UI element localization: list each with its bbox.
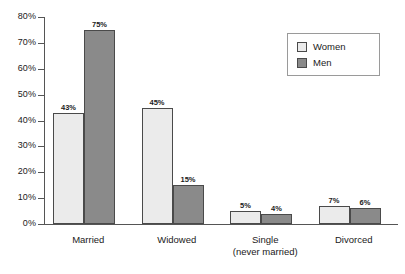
bar-men-divorced: 6%	[350, 208, 381, 224]
y-axis-tick-label: 30%	[0, 141, 36, 150]
category-sublabel-text: (never married)	[205, 246, 325, 258]
bar-group: 5%4%	[230, 17, 292, 224]
y-axis-tick	[38, 198, 44, 199]
bar-group: 45%15%	[142, 17, 204, 224]
y-axis-tick-label: 50%	[0, 90, 36, 99]
y-axis-tick-label: 60%	[0, 64, 36, 73]
legend-label-women: Women	[313, 42, 346, 52]
category-label-text: Widowed	[157, 234, 196, 245]
category-label-text: Married	[72, 234, 104, 245]
chart-legend: Women Men	[287, 33, 380, 76]
category-label-single: Single(never married)	[221, 234, 310, 258]
bar-women-married: 43%	[53, 113, 84, 224]
bar-men-married: 75%	[84, 30, 115, 224]
x-axis-line	[44, 224, 398, 225]
bar-value-label: 75%	[92, 21, 107, 29]
bar-group: 43%75%	[53, 17, 115, 224]
bar-value-label: 7%	[329, 197, 340, 205]
bar-women-widowed: 45%	[142, 108, 173, 224]
y-axis-tick	[38, 69, 44, 70]
bar-chart: 80%70%60%50%40%30%20%10%0% 43%75%45%15%5…	[0, 0, 405, 274]
y-axis-tick	[38, 121, 44, 122]
category-label-divorced: Divorced	[310, 234, 399, 246]
y-axis-tick-label: 10%	[0, 193, 36, 202]
bar-value-label: 5%	[240, 202, 251, 210]
y-axis-tick-label: 40%	[0, 116, 36, 125]
bar-value-label: 4%	[271, 205, 282, 213]
legend-label-men: Men	[313, 58, 331, 68]
bar-value-label: 43%	[61, 104, 76, 112]
bar-value-label: 15%	[180, 176, 195, 184]
y-axis-tick-label: 20%	[0, 167, 36, 176]
y-axis-tick	[38, 43, 44, 44]
legend-swatch-men-icon	[297, 58, 307, 68]
y-axis-tick	[38, 17, 44, 18]
bar-men-widowed: 15%	[173, 185, 204, 224]
category-label-text: Single	[252, 234, 278, 245]
y-axis-tick-label: 80%	[0, 12, 36, 21]
y-axis-tick	[38, 95, 44, 96]
y-axis-tick-label: 0%	[0, 219, 36, 228]
bar-women-single: 5%	[230, 211, 261, 224]
y-axis-tick-label: 70%	[0, 38, 36, 47]
y-axis-line	[44, 17, 45, 225]
category-label-married: Married	[44, 234, 133, 246]
legend-item-men: Men	[297, 55, 379, 71]
legend-swatch-women-icon	[297, 42, 307, 52]
bar-men-single: 4%	[261, 214, 292, 224]
y-axis-tick	[38, 224, 44, 225]
bar-value-label: 45%	[149, 99, 164, 107]
bar-women-divorced: 7%	[319, 206, 350, 224]
legend-item-women: Women	[297, 39, 379, 55]
y-axis-tick	[38, 146, 44, 147]
category-label-widowed: Widowed	[133, 234, 222, 246]
category-label-text: Divorced	[335, 234, 373, 245]
y-axis-tick	[38, 172, 44, 173]
bar-value-label: 6%	[360, 199, 371, 207]
y-axis-tick-labels: 80%70%60%50%40%30%20%10%0%	[0, 0, 36, 274]
